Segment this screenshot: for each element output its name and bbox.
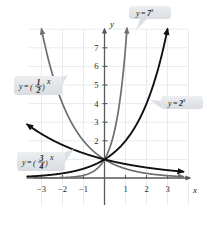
label-half-x: y=()12x <box>14 75 68 95</box>
callout-exponent: x <box>46 77 51 86</box>
y-tick-label: 3 <box>94 117 98 127</box>
x-tick-label: −3 <box>37 184 46 194</box>
y-tick-label: 5 <box>94 80 98 90</box>
x-axis-label: x <box>192 185 197 195</box>
callout-text: y= <box>18 82 29 91</box>
x-tick-label: 1 <box>123 184 127 194</box>
callout-fraction-denominator: 4 <box>39 162 44 171</box>
chart-canvas: −3−2−1123234567 y=7xy=2xy=()12xy=()34x x… <box>0 0 207 227</box>
figure-background <box>0 0 207 227</box>
y-tick-label: 6 <box>94 61 98 71</box>
x-tick-label: 2 <box>144 184 148 194</box>
callout-text: y= <box>21 158 32 167</box>
y-tick-label: 7 <box>94 43 98 53</box>
x-tick-label: 3 <box>165 184 169 194</box>
y-axis-label: y <box>109 19 114 29</box>
x-tick-label: −1 <box>79 184 88 194</box>
callout-paren-right: ) <box>44 159 48 168</box>
callout-fraction-denominator: 2 <box>36 86 41 95</box>
x-tick-label: −2 <box>58 184 67 194</box>
y-tick-label: 2 <box>94 136 98 146</box>
callout-exponent: x <box>49 153 54 162</box>
exponential-functions-figure: −3−2−1123234567 y=7xy=2xy=()12xy=()34x x… <box>0 0 207 227</box>
callout-paren-right: ) <box>41 83 45 92</box>
